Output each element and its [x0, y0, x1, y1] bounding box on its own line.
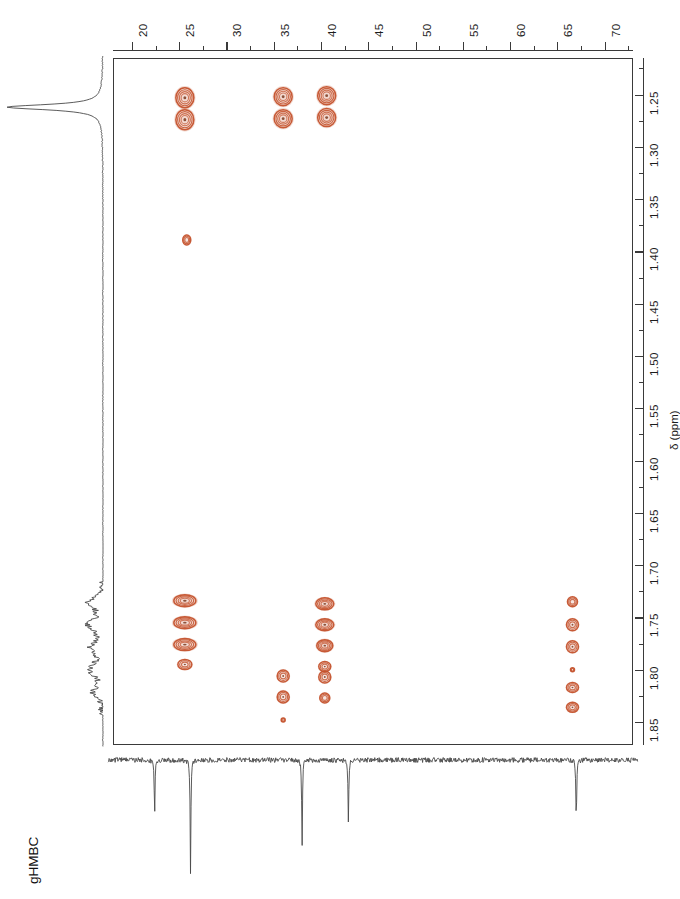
cross-peak [318, 670, 332, 684]
cross-peak [182, 234, 191, 246]
cross-peak [172, 594, 198, 608]
cross-peak [319, 692, 331, 704]
cross-peak [565, 682, 579, 694]
cross-peak [315, 639, 334, 653]
cross-peak [314, 618, 335, 632]
cross-peak [565, 618, 579, 632]
cross-peak [281, 718, 286, 723]
cross-peak [565, 701, 579, 713]
cross-peak [570, 667, 575, 672]
carbon-projection-trace [105, 748, 645, 873]
cross-peak [172, 616, 198, 630]
cross-peak [316, 107, 337, 128]
cross-peak [174, 86, 195, 110]
cross-peak [316, 85, 337, 106]
experiment-title-label: gHMBC [26, 837, 41, 884]
cross-peak [565, 640, 579, 654]
cross-peak [273, 86, 294, 107]
cross-peak [174, 108, 195, 132]
cross-peak [273, 108, 294, 129]
cross-peak [177, 659, 194, 671]
cross-peak [276, 690, 290, 704]
cross-peak [172, 638, 198, 652]
cross-peak [276, 669, 290, 683]
proton-projection-trace [0, 55, 115, 750]
cross-peak [314, 597, 335, 611]
cross-peak [567, 596, 579, 608]
